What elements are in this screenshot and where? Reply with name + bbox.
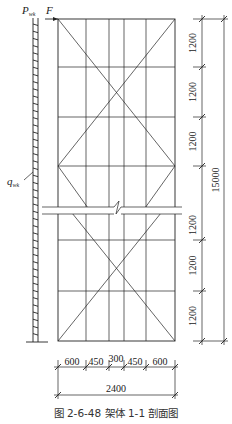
horizontal-total-label: 2400 (106, 383, 126, 394)
vertical-dim-label: 1200 (187, 33, 198, 53)
diagram-canvas: PwkFqwk120012001200120012001200150006004… (0, 0, 232, 424)
vertical-dim-label: 1200 (187, 306, 198, 326)
force-label: F (45, 4, 53, 16)
horizontal-dim-label: 600 (153, 356, 168, 367)
horizontal-dim-label: 450 (89, 356, 104, 367)
wind-load-column (26, 18, 48, 342)
force-arrow (45, 17, 58, 21)
horizontal-dim-label: 300 (109, 353, 124, 364)
frame (40, 19, 185, 341)
vertical-total-label: 15000 (210, 168, 221, 193)
figure-caption: 图 2-6-48 架体 1-1 剖面图 (0, 405, 232, 420)
frame-section-diagram: PwkFqwk120012001200120012001200150006004… (0, 0, 232, 424)
qwk-label: qwk (7, 175, 20, 188)
vertical-dim-label: 1200 (187, 215, 198, 235)
pwk-label: Pwk (21, 4, 36, 17)
horizontal-dim-label: 450 (128, 356, 143, 367)
vertical-dim-label: 1200 (187, 132, 198, 152)
vertical-dim-label: 1200 (187, 256, 198, 276)
horizontal-dim-label: 600 (65, 356, 80, 367)
vertical-dim-label: 1200 (187, 82, 198, 102)
